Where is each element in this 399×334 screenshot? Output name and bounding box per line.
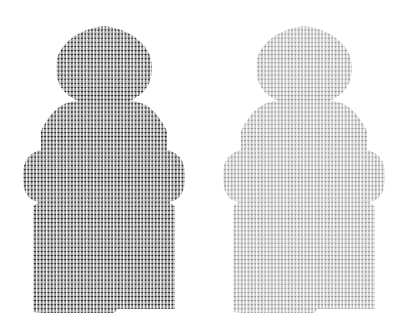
figure-right-texture-rect (200, 0, 399, 334)
artwork-canvas (0, 0, 399, 334)
figure-left-texture-rect (0, 0, 199, 334)
figure-right-svg (200, 0, 399, 334)
figure-right (200, 0, 399, 334)
figure-left (0, 0, 199, 334)
figure-left-fill (0, 0, 199, 334)
figure-right-fill (200, 0, 399, 334)
figure-left-svg (0, 0, 199, 334)
